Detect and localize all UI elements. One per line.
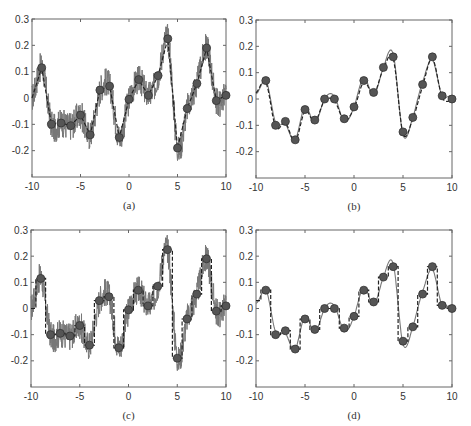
x-tick-label: 5 (174, 391, 180, 402)
subplot-caption: (b) (348, 200, 361, 213)
x-tick-label: 10 (446, 391, 458, 402)
sample-marker (212, 97, 220, 105)
sample-marker (125, 306, 133, 314)
subplot-caption: (c) (122, 409, 135, 422)
sample-marker (428, 53, 436, 61)
sample-marker (262, 286, 270, 294)
sample-marker (379, 63, 387, 71)
sample-marker (203, 255, 211, 263)
sample-marker (301, 106, 309, 114)
x-tick-label: 10 (220, 391, 232, 402)
chart-d: 0.30.20.10-0.1-0.2-10-50510(d) (235, 213, 471, 426)
sample-marker (330, 95, 338, 103)
x-tick-label: 0 (351, 182, 357, 193)
sample-marker (389, 53, 397, 61)
y-tick-label: 0 (247, 94, 253, 105)
x-tick-label: 5 (400, 391, 406, 402)
y-tick-label: 0 (22, 303, 28, 314)
sample-marker (77, 111, 85, 119)
sample-marker (86, 131, 94, 139)
sample-marker (281, 327, 289, 335)
sample-marker (183, 105, 191, 113)
sample-marker (321, 95, 329, 103)
sample-marker (409, 113, 417, 121)
x-tick-label: -10 (249, 391, 264, 402)
x-tick-label: -5 (301, 182, 310, 193)
y-tick-label: 0 (23, 93, 29, 104)
y-tick-label: 0.2 (14, 251, 28, 262)
sample-marker (164, 35, 172, 43)
sample-marker (57, 119, 65, 127)
y-tick-label: 0.2 (239, 41, 253, 52)
subplot-c: 0.30.20.10-0.1-0.2-10-50510(c) (0, 213, 235, 426)
sample-marker (164, 246, 172, 254)
y-tick-label: 0.2 (239, 251, 253, 262)
sample-marker (154, 282, 162, 290)
sample-marker (203, 44, 211, 52)
sample-marker (144, 302, 152, 310)
sample-marker (193, 80, 201, 88)
x-tick-label: -10 (24, 391, 39, 402)
sample-marker (212, 307, 220, 315)
sample-marker (340, 324, 348, 332)
y-tick-label: -0.1 (12, 119, 30, 130)
sample-marker (350, 103, 358, 111)
x-tick-label: 10 (220, 181, 232, 192)
y-tick-label: 0.1 (14, 277, 28, 288)
sample-marker (193, 290, 201, 298)
y-tick-label: 0.3 (14, 225, 28, 236)
signal-line (256, 260, 452, 350)
sample-marker (448, 305, 456, 313)
x-tick-label: 5 (400, 182, 406, 193)
interpolant-line (256, 267, 452, 350)
sample-marker (291, 136, 299, 144)
sample-marker (38, 64, 46, 72)
sample-marker (115, 134, 123, 142)
sample-marker (66, 332, 74, 340)
sample-marker (379, 273, 387, 281)
signal-line (256, 50, 452, 141)
sample-marker (134, 286, 142, 294)
sample-marker (291, 345, 299, 353)
sample-marker (67, 122, 75, 130)
sample-marker (409, 323, 417, 331)
sample-marker (76, 322, 84, 330)
sample-marker (115, 344, 123, 352)
x-tick-label: -5 (76, 181, 85, 192)
sample-marker (438, 92, 446, 100)
y-tick-label: 0 (247, 303, 253, 314)
y-tick-label: 0.1 (15, 66, 29, 77)
axes-frame (256, 230, 452, 387)
x-tick-label: 0 (126, 391, 132, 402)
sample-marker (311, 325, 319, 333)
sample-marker (106, 82, 114, 90)
sample-marker (399, 128, 407, 136)
sample-marker (350, 312, 358, 320)
sample-marker (448, 95, 456, 103)
subplot-caption: (d) (348, 409, 361, 422)
interpolant-line (256, 55, 452, 142)
sample-marker (419, 290, 427, 298)
y-tick-label: -0.1 (11, 329, 29, 340)
sample-marker (360, 286, 368, 294)
y-tick-label: -0.2 (12, 145, 30, 156)
sample-marker (301, 315, 309, 323)
sample-marker (419, 81, 427, 89)
sample-marker (272, 331, 280, 339)
x-tick-label: 0 (351, 391, 357, 402)
sample-marker (428, 263, 436, 271)
sample-marker (86, 341, 94, 349)
y-tick-label: 0.3 (239, 225, 253, 236)
sample-marker (154, 72, 162, 80)
y-tick-label: -0.1 (236, 329, 254, 340)
signal-line (32, 24, 226, 161)
y-tick-label: 0.3 (15, 14, 29, 25)
sample-marker (96, 86, 104, 94)
x-tick-label: 5 (175, 181, 181, 192)
x-tick-label: -10 (249, 182, 264, 193)
sample-marker (173, 354, 181, 362)
sample-marker (370, 88, 378, 96)
sample-marker (262, 77, 270, 85)
chart-b: 0.30.20.10-0.1-0.2-10-50510(b) (235, 0, 471, 213)
sample-marker (222, 91, 230, 99)
